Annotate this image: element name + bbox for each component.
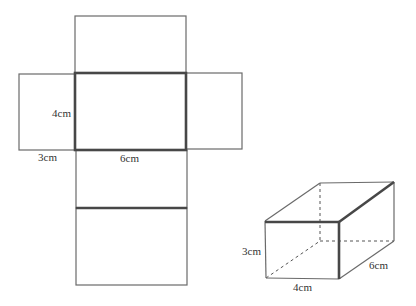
cuboid-net: 4cm 3cm 6cm [19, 16, 242, 285]
net-bottom-face [76, 208, 187, 285]
box-label-depth: 6cm [369, 259, 388, 271]
box-front-left-edge [265, 221, 266, 278]
box-label-height: 3cm [242, 245, 261, 257]
cuboid-3d: 3cm 4cm 6cm [242, 182, 394, 293]
box-front-bottom-edge [266, 278, 339, 279]
box-label-width: 4cm [293, 281, 312, 293]
box-hidden-depth-edge [266, 241, 320, 278]
box-top-back-edge [320, 182, 394, 183]
net-top-flap [75, 16, 186, 73]
net-label-height: 4cm [52, 107, 71, 119]
box-top-left-depth-edge [265, 183, 320, 221]
box-top-right-depth-edge [339, 182, 394, 222]
net-right-flap [186, 73, 242, 149]
net-label-length: 6cm [120, 152, 139, 164]
cuboid-net-and-box-diagram: 4cm 3cm 6cm 3cm 4cm 6cm [0, 0, 416, 306]
net-center-face [75, 73, 186, 150]
net-label-width: 3cm [38, 151, 57, 163]
